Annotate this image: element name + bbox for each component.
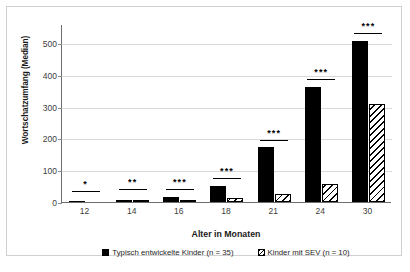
significance-mark: ***	[254, 129, 294, 138]
significance-bracket	[354, 33, 382, 34]
bar-kinder-mit-sev	[133, 200, 149, 202]
bar-kinder-mit-sev	[180, 200, 196, 202]
chart-frame: 0100200300400500 Wortschatzumfang (Media…	[6, 6, 402, 256]
bar-group: ***	[298, 24, 345, 202]
bar-group: **	[109, 24, 156, 202]
x-axis-title: Alter in Monaten	[61, 229, 391, 239]
significance-bracket	[166, 189, 194, 190]
plot-area: ******************	[61, 25, 391, 203]
significance-mark: ***	[160, 178, 200, 187]
y-axis-tick-label: 0	[23, 199, 57, 208]
significance-mark: **	[113, 178, 153, 187]
y-axis-tick	[58, 203, 62, 204]
significance-mark: ***	[301, 68, 341, 77]
significance-bracket	[260, 140, 288, 141]
x-axis-tick-label: 21	[253, 207, 293, 216]
significance-bracket	[213, 178, 241, 179]
legend-item: Kinder mit SEV (n = 10)	[258, 249, 350, 257]
significance-bracket	[119, 189, 147, 190]
bar-group: ***	[345, 24, 392, 202]
significance-bracket	[72, 191, 100, 192]
chart-legend: Typisch entwickelte Kinder (n = 35)Kinde…	[61, 247, 391, 259]
chart-figure: 0100200300400500 Wortschatzumfang (Media…	[0, 0, 410, 272]
x-axis-tick-label: 12	[65, 207, 105, 216]
bar-typisch-entwickelte-kinder	[305, 87, 321, 202]
bar-typisch-entwickelte-kinder	[116, 200, 132, 202]
bar-typisch-entwickelte-kinder	[210, 186, 226, 202]
bar-kinder-mit-sev	[369, 104, 385, 202]
bar-kinder-mit-sev	[322, 184, 338, 202]
x-axis-tick-label: 16	[159, 207, 199, 216]
legend-label: Typisch entwickelte Kinder (n = 35)	[112, 249, 233, 257]
significance-mark: ***	[207, 167, 247, 176]
x-axis-tick-label: 14	[112, 207, 152, 216]
bar-typisch-entwickelte-kinder	[352, 41, 368, 202]
significance-mark: *	[66, 180, 106, 189]
bar-group: ***	[203, 24, 250, 202]
y-axis-title: Wortschatzumfang (Median)	[20, 10, 30, 170]
bar-typisch-entwickelte-kinder	[163, 197, 179, 202]
bar-group: ***	[156, 24, 203, 202]
bar-typisch-entwickelte-kinder	[69, 201, 85, 202]
legend-swatch-hatch	[258, 249, 265, 256]
legend-item: Typisch entwickelte Kinder (n = 35)	[102, 249, 233, 257]
legend-swatch-solid	[102, 249, 109, 256]
x-axis-tick-label: 30	[347, 207, 387, 216]
significance-bracket	[307, 79, 335, 80]
legend-label: Kinder mit SEV (n = 10)	[268, 249, 350, 257]
bar-typisch-entwickelte-kinder	[258, 147, 274, 202]
bar-kinder-mit-sev	[275, 194, 291, 202]
significance-mark: ***	[348, 22, 388, 31]
bar-kinder-mit-sev	[227, 198, 243, 202]
bar-group: ***	[251, 24, 298, 202]
x-axis-tick-label: 24	[300, 207, 340, 216]
bar-group: *	[62, 24, 109, 202]
x-axis-tick-label: 18	[206, 207, 246, 216]
